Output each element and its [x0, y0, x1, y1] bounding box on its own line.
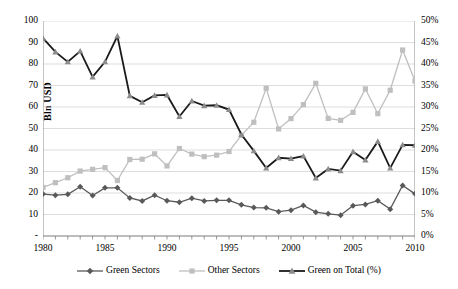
data-point-marker: [301, 102, 306, 107]
square-icon: [179, 266, 205, 276]
data-point-marker: [43, 191, 46, 197]
legend-label: Green on Total (%): [308, 266, 381, 276]
y-axis-left-tick-label: 60: [12, 102, 38, 112]
plot-area: [43, 21, 415, 236]
y-axis-right-tick-label: 20%: [421, 145, 451, 155]
data-point-marker: [53, 180, 58, 185]
data-point-marker: [189, 268, 194, 273]
data-point-marker: [152, 151, 157, 156]
y-axis-left-tick-label: 80: [12, 59, 38, 69]
data-point-marker: [65, 191, 71, 197]
data-point-marker: [177, 146, 182, 151]
data-point-marker: [325, 211, 331, 217]
y-axis-left-tick-label: 70: [12, 81, 38, 91]
data-point-marker: [412, 78, 415, 83]
data-point-marker: [78, 168, 83, 173]
series-green-sectors: [43, 182, 415, 218]
chart-container: Bln USD 100908070605040302010- 50%45%40%…: [0, 0, 458, 289]
y-axis-right-tick-label: 50%: [421, 16, 451, 26]
data-point-marker: [214, 153, 219, 158]
data-point-marker: [288, 207, 294, 213]
data-point-marker: [276, 209, 282, 215]
y-axis-right-tick-label: 35%: [421, 81, 451, 91]
legend-item-green-on-total[interactable]: Green on Total (%): [279, 266, 381, 276]
y-axis-left-tick-label: 100: [12, 16, 38, 26]
y-axis-left-tick-label: 30: [12, 167, 38, 177]
data-point-marker: [362, 201, 368, 207]
x-axis-tick-label: 2005: [333, 244, 373, 254]
x-axis-tick-label: 2000: [271, 244, 311, 254]
data-point-marker: [238, 202, 244, 208]
data-point-marker: [388, 88, 393, 93]
data-point-marker: [127, 93, 133, 99]
data-point-marker: [77, 48, 83, 54]
data-point-marker: [313, 81, 318, 86]
data-point-marker: [140, 157, 145, 162]
data-point-marker: [102, 59, 108, 65]
data-point-marker: [90, 167, 95, 172]
y-axis-right-tick-label: 30%: [421, 102, 451, 112]
chart-legend: Green SectorsOther SectorsGreen on Total…: [0, 266, 458, 276]
data-point-marker: [164, 163, 169, 168]
data-point-marker: [288, 116, 293, 121]
data-point-marker: [300, 202, 306, 208]
chart-svg: [43, 21, 415, 242]
data-point-marker: [202, 154, 207, 159]
y-axis-left-tick-label: 20: [12, 188, 38, 198]
data-point-marker: [201, 198, 207, 204]
data-point-marker: [375, 138, 381, 144]
data-point-marker: [338, 118, 343, 123]
data-point-marker: [226, 197, 232, 203]
legend-label: Other Sectors: [208, 266, 260, 276]
data-point-marker: [326, 116, 331, 121]
data-point-marker: [263, 205, 269, 211]
legend-label: Green Sectors: [106, 266, 160, 276]
x-axis-tick-label: 1980: [23, 244, 63, 254]
data-point-marker: [114, 33, 120, 39]
data-point-marker: [226, 149, 231, 154]
data-point-marker: [127, 157, 132, 162]
data-point-marker: [251, 205, 257, 211]
y-axis-left-tick-label: -: [12, 231, 38, 241]
y-axis-right-tick-label: 10%: [421, 188, 451, 198]
x-axis-tick-label: 2010: [395, 244, 435, 254]
data-point-marker: [87, 268, 94, 275]
data-point-marker: [176, 199, 182, 205]
x-axis-tick-label: 1985: [85, 244, 125, 254]
data-point-marker: [350, 149, 356, 155]
diamond-icon: [77, 266, 103, 276]
y-axis-left-tick-label: 90: [12, 38, 38, 48]
triangle-icon: [279, 266, 305, 276]
y-axis-right-tick-label: 15%: [421, 167, 451, 177]
data-point-marker: [251, 120, 256, 125]
data-point-marker: [102, 185, 108, 191]
data-point-marker: [264, 86, 269, 91]
data-point-marker: [400, 47, 405, 52]
data-point-marker: [214, 197, 220, 203]
data-point-marker: [115, 178, 120, 183]
data-point-marker: [189, 151, 194, 156]
x-axis-tick-label: 1990: [147, 244, 187, 254]
y-axis-left-tick-label: 40: [12, 145, 38, 155]
y-axis-right-tick-label: 0%: [421, 231, 451, 241]
data-point-marker: [189, 195, 195, 201]
y-axis-right-tick-label: 5%: [421, 210, 451, 220]
data-point-marker: [363, 86, 368, 91]
x-axis-tick-label: 1995: [209, 244, 249, 254]
data-point-marker: [43, 185, 46, 190]
data-point-marker: [139, 198, 145, 204]
data-point-marker: [102, 165, 107, 170]
data-point-marker: [189, 98, 195, 104]
data-point-marker: [350, 110, 355, 115]
legend-item-other-sectors[interactable]: Other Sectors: [179, 266, 260, 276]
y-axis-right-tick-label: 25%: [421, 124, 451, 134]
y-axis-left-tick-label: 10: [12, 210, 38, 220]
data-point-marker: [276, 126, 281, 131]
y-axis-right-tick-label: 40%: [421, 59, 451, 69]
data-point-marker: [65, 175, 70, 180]
legend-item-green-sectors[interactable]: Green Sectors: [77, 266, 160, 276]
data-point-marker: [375, 111, 380, 116]
data-point-marker: [164, 198, 170, 204]
y-axis-left-tick-label: 50: [12, 124, 38, 134]
y-axis-right-tick-label: 45%: [421, 38, 451, 48]
